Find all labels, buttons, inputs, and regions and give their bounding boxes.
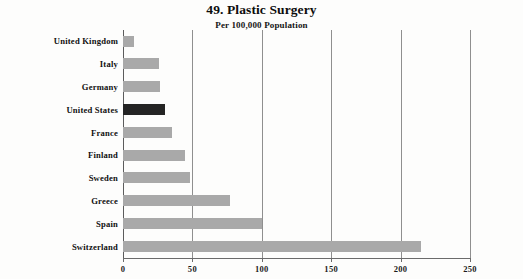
category-label-sweden: Sweden: [0, 173, 118, 183]
bar-row: [123, 53, 470, 76]
bar-spain: [123, 218, 262, 229]
bar-greece: [123, 195, 230, 206]
chart-figure: 49. Plastic Surgery Per 100,000 Populati…: [0, 0, 523, 279]
category-label-united-states: United States: [0, 105, 118, 115]
category-label-germany: Germany: [0, 82, 118, 92]
tick-mark-100: [262, 258, 263, 262]
tick-mark-50: [192, 258, 193, 262]
bar-united-kingdom: [123, 36, 134, 47]
title-block: 49. Plastic Surgery Per 100,000 Populati…: [0, 2, 523, 31]
x-axis-line: [123, 258, 471, 259]
category-label-greece: Greece: [0, 196, 118, 206]
x-tick-label-0: 0: [103, 264, 143, 274]
bar-row: [123, 212, 470, 235]
bar-finland: [123, 150, 185, 161]
x-tick-label-100: 100: [242, 264, 282, 274]
bar-france: [123, 127, 172, 138]
bar-row: [123, 167, 470, 190]
tick-mark-0: [123, 258, 124, 262]
category-label-united-kingdom: United Kingdom: [0, 36, 118, 46]
page-title: 49. Plastic Surgery: [0, 2, 523, 17]
bar-sweden: [123, 172, 190, 183]
bar-row: [123, 76, 470, 99]
bar-row: [123, 30, 470, 53]
tick-mark-150: [331, 258, 332, 262]
bar-united-states: [123, 104, 165, 115]
category-label-finland: Finland: [0, 150, 118, 160]
category-label-spain: Spain: [0, 219, 118, 229]
bar-switzerland: [123, 241, 421, 252]
bar-germany: [123, 81, 160, 92]
plot-area: [123, 30, 470, 258]
category-label-switzerland: Switzerland: [0, 242, 118, 252]
x-tick-label-150: 150: [311, 264, 351, 274]
bar-row: [123, 98, 470, 121]
bar-row: [123, 144, 470, 167]
category-label-italy: Italy: [0, 59, 118, 69]
gridline-x-250: [470, 30, 471, 258]
bar-row: [123, 190, 470, 213]
bar-italy: [123, 58, 159, 69]
bar-row: [123, 121, 470, 144]
tick-mark-250: [470, 258, 471, 262]
tick-mark-200: [401, 258, 402, 262]
x-tick-label-200: 200: [381, 264, 421, 274]
category-label-france: France: [0, 128, 118, 138]
x-tick-label-250: 250: [450, 264, 490, 274]
bar-row: [123, 235, 470, 258]
x-tick-label-50: 50: [172, 264, 212, 274]
